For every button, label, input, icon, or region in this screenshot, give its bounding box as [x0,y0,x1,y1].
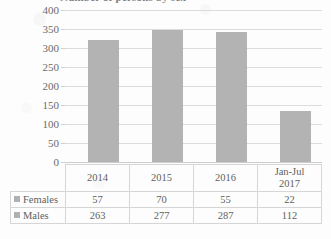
legend-swatch-icon-males [14,212,20,218]
cell-males-2016: 287 [194,208,258,224]
chart-screenshot: Number of persons by sex 400 350 300 250… [0,0,331,239]
category-cell-2014: 2014 [66,165,130,192]
cell-females-jan-jul-2017: 22 [258,192,322,208]
axis-baseline [65,162,322,163]
chart-title-text: Number of persons by sex [60,0,275,3]
y-axis-label-200: 200 [43,80,60,92]
ytick-0 [61,162,65,163]
y-axis-label-300: 300 [43,42,60,54]
series-label-text-males: Males [23,210,49,221]
bar-2016[interactable] [216,32,247,162]
chart-data-table: 2014 2015 2016 Jan-Jul 2017 Females 57 7… [10,164,322,224]
cell-females-2014: 57 [66,192,130,208]
ytick-400 [61,10,65,11]
chart-title-clipped: Number of persons by sex [60,0,275,4]
ytick-250 [61,67,65,68]
gridline-400 [65,10,322,11]
category-line-1: Jan-Jul [275,166,305,177]
series-label-text-females: Females [23,194,58,205]
table-row-males: Males 263 277 287 112 [11,208,322,224]
table-row-categories: 2014 2015 2016 Jan-Jul 2017 [11,165,322,192]
gridline-350 [65,29,322,30]
cell-males-jan-jul-2017: 112 [258,208,322,224]
ytick-100 [61,124,65,125]
plot-area: 400 350 300 250 200 150 100 50 0 [65,10,322,163]
y-axis-label-400: 400 [43,4,60,16]
y-axis-label-150: 150 [43,99,60,111]
table-row-females: Females 57 70 55 22 [11,192,322,208]
ytick-350 [61,29,65,30]
bar-2015[interactable] [152,30,183,162]
category-cell-2015: 2015 [130,165,194,192]
category-cell-jan-jul-2017: Jan-Jul 2017 [258,165,322,192]
series-label-males: Males [11,208,66,224]
category-cell-2016: 2016 [194,165,258,192]
cell-males-2014: 263 [66,208,130,224]
y-axis-label-50: 50 [48,137,59,149]
bar-jan-jul-2017[interactable] [280,111,311,162]
category-line-2: 2017 [279,178,300,189]
ytick-200 [61,86,65,87]
ytick-50 [61,143,65,144]
cell-females-2015: 70 [130,192,194,208]
cell-females-2016: 55 [194,192,258,208]
y-axis-label-350: 350 [43,23,60,35]
category-row-spacer [11,165,66,192]
ytick-300 [61,48,65,49]
y-axis-label-250: 250 [43,61,60,73]
series-label-females: Females [11,192,66,208]
bar-2014[interactable] [88,40,119,162]
cell-males-2015: 277 [130,208,194,224]
legend-swatch-icon-females [14,196,20,202]
y-axis-label-100: 100 [43,118,60,130]
ytick-150 [61,105,65,106]
